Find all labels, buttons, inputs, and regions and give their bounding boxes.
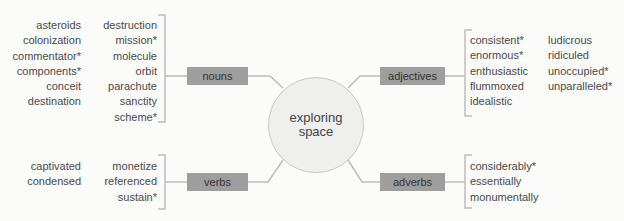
- word-item: unparalleled*: [548, 79, 612, 94]
- word-item: sanctity: [103, 94, 157, 109]
- word-item: flummoxed: [470, 79, 528, 94]
- word-item: parachute: [103, 79, 157, 94]
- nouns-category-box: nouns: [187, 67, 248, 85]
- word-item: ludicrous: [548, 33, 612, 48]
- verbs-column-1: captivated condensed: [27, 159, 81, 190]
- verbs-bracket: [158, 155, 165, 209]
- word-item: idealistic: [470, 94, 528, 109]
- adverbs-column-1: considerably* essentially monumentally: [470, 159, 538, 205]
- word-item: essentially: [470, 174, 538, 189]
- adjectives-column-1: consistent* enormous* enthusiastic flumm…: [470, 33, 528, 109]
- nouns-column-1: asteroids colonization commentator* comp…: [13, 18, 81, 110]
- adverbs-category-box: adverbs: [380, 173, 445, 191]
- verbs-column-2: monetize referenced sustain*: [104, 159, 157, 205]
- word-item: orbit: [103, 64, 157, 79]
- word-item: ridiculed: [548, 48, 612, 63]
- adverbs-label: adverbs: [393, 176, 432, 188]
- adjectives-label: adjectives: [388, 70, 437, 82]
- nouns-label: nouns: [203, 70, 233, 82]
- word-item: referenced: [104, 174, 157, 189]
- word-item: conceit: [13, 79, 81, 94]
- nouns-bracket: [158, 15, 165, 122]
- adjectives-to-center: [348, 76, 380, 88]
- word-item: components*: [13, 64, 81, 79]
- word-item: enormous*: [470, 48, 528, 63]
- verbs-to-center: [248, 160, 283, 182]
- word-item: monumentally: [470, 190, 538, 205]
- word-item: considerably*: [470, 159, 538, 174]
- word-item: condensed: [27, 174, 81, 189]
- word-item: consistent*: [470, 33, 528, 48]
- word-item: destruction: [103, 18, 157, 33]
- word-item: enthusiastic: [470, 64, 528, 79]
- word-item: commentator*: [13, 49, 81, 64]
- word-item: destination: [13, 94, 81, 109]
- nouns-column-2: destruction mission* molecule orbit para…: [103, 18, 157, 125]
- word-item: mission*: [103, 33, 157, 48]
- word-item: sustain*: [104, 190, 157, 205]
- word-item: monetize: [104, 159, 157, 174]
- word-item: colonization: [13, 33, 81, 48]
- word-item: scheme*: [103, 110, 157, 125]
- center-topic: exploring space: [268, 77, 364, 173]
- center-topic-line2: space: [290, 125, 343, 139]
- word-item: unoccupied*: [548, 64, 612, 79]
- adjectives-category-box: adjectives: [380, 67, 445, 85]
- word-item: molecule: [103, 49, 157, 64]
- center-topic-line1: exploring: [290, 111, 343, 125]
- word-item: captivated: [27, 159, 81, 174]
- nouns-to-center: [248, 76, 283, 88]
- adverbs-to-center: [348, 160, 380, 182]
- verbs-category-box: verbs: [187, 173, 248, 191]
- word-item: asteroids: [13, 18, 81, 33]
- verbs-label: verbs: [204, 176, 231, 188]
- adjectives-column-2: ludicrous ridiculed unoccupied* unparall…: [548, 33, 612, 94]
